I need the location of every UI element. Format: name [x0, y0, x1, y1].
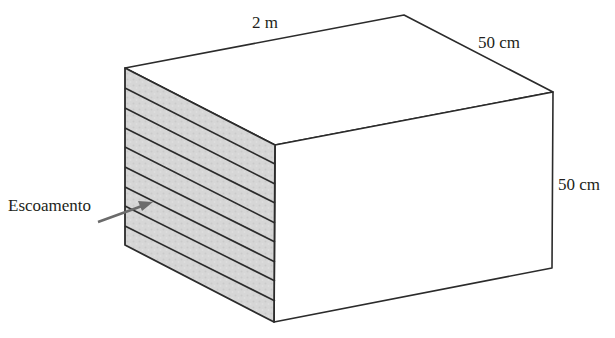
flow-label: Escoamento — [8, 196, 91, 215]
height-label: 50 cm — [558, 175, 600, 194]
box-diagram: 2 m 50 cm 50 cm Escoamento — [0, 0, 615, 338]
length-label: 2 m — [252, 13, 278, 32]
depth-label: 50 cm — [478, 33, 520, 52]
